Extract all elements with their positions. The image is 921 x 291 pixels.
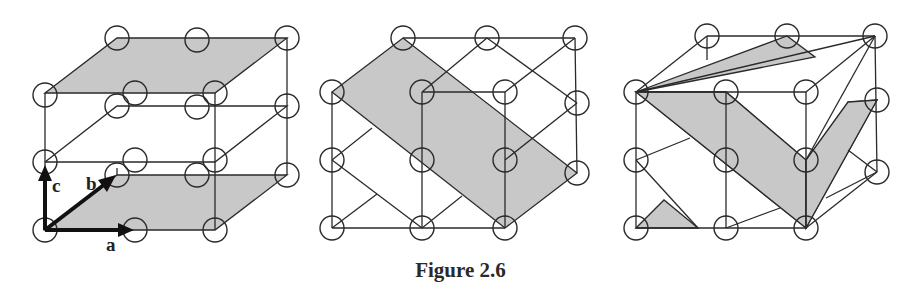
axis-b-label: b	[86, 173, 97, 194]
lattice-panel-1: c b a	[33, 26, 299, 255]
figure-caption: Figure 2.6	[0, 258, 921, 283]
lattice-panel-2	[320, 26, 589, 240]
shaded-plane-top	[45, 38, 287, 93]
crystal-lattice-figure: c b a	[0, 0, 921, 291]
shaded-plane-upper	[636, 36, 815, 92]
axis-c-label: c	[52, 175, 60, 196]
axis-a-label: a	[106, 234, 116, 255]
shaded-plane-lower	[636, 200, 698, 228]
lattice-panel-3	[624, 24, 889, 240]
